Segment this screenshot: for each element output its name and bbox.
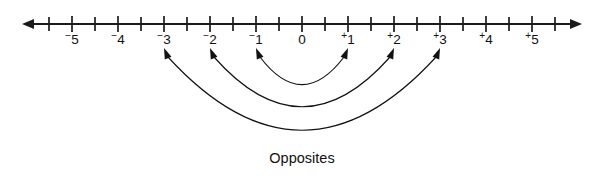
tick-label-neg4: −4: [111, 30, 125, 47]
arc-pair-1: [260, 57, 344, 85]
tick-label-group: −5−4−3−2−10+1+2+3+4+5: [65, 30, 538, 47]
tick-label-neg5: −5: [65, 30, 78, 47]
tick-label-pos3: +3: [433, 30, 446, 47]
opposite-pair-arc-group: [164, 48, 440, 130]
arc-arrowhead-right-pair-3: [433, 48, 440, 60]
arc-pair-3: [168, 57, 436, 130]
opposites-caption: Opposites: [269, 150, 334, 166]
arc-arrowhead-right-pair-1: [341, 48, 348, 60]
number-line-group: −5−4−3−2−10+1+2+3+4+5: [22, 16, 582, 47]
tick-label-pos2: +2: [387, 30, 400, 47]
tick-label-neg2: −2: [203, 30, 216, 47]
arc-pair-2: [214, 57, 390, 107]
right-arrowhead-icon: [570, 19, 582, 29]
number-line-opposites-figure: −5−4−3−2−10+1+2+3+4+5 Opposites: [0, 0, 603, 180]
tick-label-neg3: −3: [157, 30, 170, 47]
tick-label-neg1: −1: [249, 30, 262, 47]
left-arrowhead-icon: [22, 19, 34, 29]
arc-arrowhead-left-pair-2: [210, 48, 217, 60]
arc-arrowhead-left-pair-3: [164, 48, 171, 60]
arc-arrowhead-left-pair-1: [256, 48, 263, 60]
tick-label-zero: 0: [298, 32, 306, 47]
arc-arrowhead-right-pair-2: [387, 48, 394, 60]
tick-label-pos5: +5: [525, 30, 538, 47]
tick-label-pos4: +4: [479, 30, 493, 47]
tick-label-pos1: +1: [341, 30, 354, 47]
diagram-canvas: −5−4−3−2−10+1+2+3+4+5 Opposites: [0, 0, 603, 180]
